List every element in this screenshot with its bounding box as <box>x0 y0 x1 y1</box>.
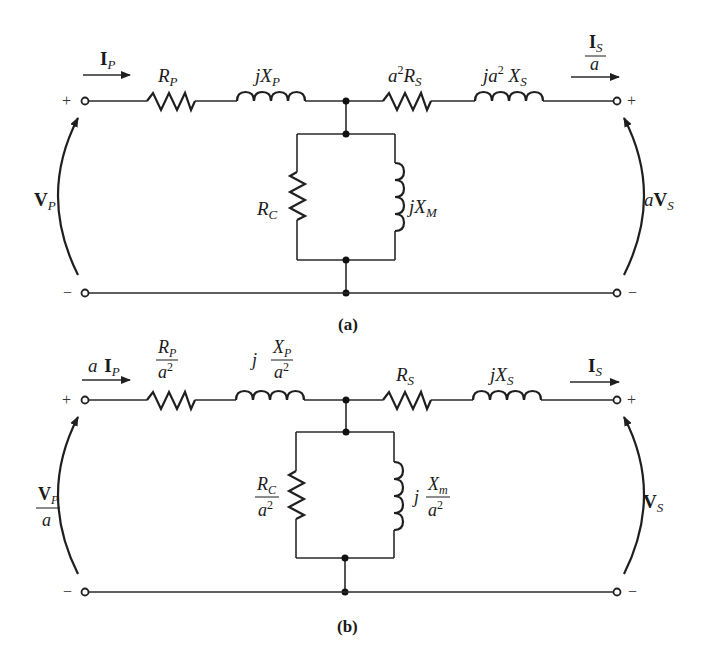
node-top-a <box>343 98 350 105</box>
svg-text:a: a <box>42 510 51 530</box>
node-shunt-top-b <box>343 429 350 436</box>
resistor-a2rs-a <box>383 93 431 110</box>
label-ip-a: IP <box>100 48 115 72</box>
inductor-jxs-b <box>473 391 541 400</box>
resistor-rs-b <box>383 392 431 409</box>
voltage-arrow-left-b <box>58 417 78 574</box>
resistor-rp-a <box>147 93 195 110</box>
shunt-branch-a <box>290 101 404 293</box>
voltage-arrow-left-a <box>58 118 78 275</box>
terminal-right-top-b <box>614 397 621 404</box>
label-vp-a: VP <box>34 189 56 213</box>
label-vp-over-a-b: VP a <box>36 484 60 530</box>
inductor-jxp-over-a2-b <box>236 391 304 400</box>
svg-text:j: j <box>412 487 419 507</box>
label-a2rs-a: a2RS <box>388 63 422 89</box>
svg-text:RC: RC <box>256 474 277 497</box>
voltage-arrow-right-b <box>624 417 644 574</box>
circuit-b: + + − − a IP IS RP a2 j XP <box>36 337 664 636</box>
label-is-over-a-a: IS a <box>585 32 606 74</box>
svg-text:Xm: Xm <box>427 474 448 497</box>
svg-text:a2: a2 <box>158 360 173 382</box>
label-ja2xs-a: ja2 XS <box>480 63 527 89</box>
label-jxp-over-a2-b: j XP a2 <box>250 337 293 382</box>
label-jxm-a: jXM <box>406 196 438 220</box>
terminal-right-top-a <box>614 98 621 105</box>
label-rc-over-a2-b: RC a2 <box>255 474 279 520</box>
label-jxm-over-a2-b: j Xm a2 <box>412 474 450 520</box>
plus-sign-left-b: + <box>62 391 71 408</box>
plus-sign-right-b: + <box>627 391 636 408</box>
caption-a: (a) <box>338 315 358 334</box>
svg-text:XP: XP <box>272 337 292 360</box>
plus-sign-right-a: + <box>627 92 636 109</box>
node-top-b <box>343 397 350 404</box>
minus-sign-right-b: − <box>628 583 637 600</box>
voltage-arrow-right-a <box>624 118 644 275</box>
svg-text:j: j <box>250 350 257 370</box>
svg-text:VP: VP <box>38 484 59 507</box>
label-is-b: IS <box>588 355 602 379</box>
inductor-jxp-a <box>237 92 305 101</box>
label-jxp-a: jXP <box>252 65 280 89</box>
label-a-ip-b: a IP <box>88 355 120 379</box>
terminal-right-bottom-a <box>614 290 621 297</box>
minus-sign-left-a: − <box>63 284 72 301</box>
svg-text:IS: IS <box>589 32 603 55</box>
caption-b: (b) <box>337 617 358 636</box>
terminal-left-top-a <box>82 98 89 105</box>
svg-text:a: a <box>590 54 599 74</box>
plus-sign-left-a: + <box>62 92 71 109</box>
label-rp-over-a2-b: RP a2 <box>156 337 178 382</box>
label-rc-a: RC <box>256 198 278 222</box>
terminal-right-bottom-b <box>614 589 621 596</box>
label-avs-a: aVS <box>644 189 674 213</box>
label-rp-a: RP <box>157 65 178 89</box>
label-vs-b: VS <box>643 491 664 515</box>
minus-sign-left-b: − <box>63 583 72 600</box>
label-rs-b: RS <box>395 364 415 388</box>
terminal-left-top-b <box>82 397 89 404</box>
circuit-a: + + − − IP IS a RP jXP a2RS <box>34 32 674 334</box>
svg-text:RP: RP <box>157 337 177 360</box>
resistor-rp-over-a2-b <box>147 392 195 409</box>
transformer-equivalent-circuits: + + − − IP IS a RP jXP a2RS <box>0 0 703 655</box>
node-shunt-bottom-b <box>342 555 349 562</box>
terminal-left-bottom-a <box>82 290 89 297</box>
svg-text:a2: a2 <box>428 498 443 520</box>
inductor-ja2xs-a <box>475 92 543 101</box>
svg-text:a2: a2 <box>274 360 289 382</box>
node-shunt-bottom-a <box>343 257 350 264</box>
minus-sign-right-a: − <box>628 284 637 301</box>
label-jxs-b: jXS <box>487 364 514 388</box>
svg-text:a2: a2 <box>258 498 273 520</box>
node-shunt-top-a <box>343 131 350 138</box>
terminal-left-bottom-b <box>82 589 89 596</box>
